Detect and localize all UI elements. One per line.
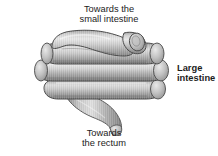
label-small-intestine: Towards the small intestine [0,4,218,25]
coil-loop-4 [44,79,166,99]
label-large-intestine-line2: intestine [177,73,215,83]
coil-loop-1 [52,30,135,56]
label-rectum-line2: the rectum [0,138,208,148]
label-rectum: Towards the rectum [0,128,208,149]
figure-root: Towards the small intestine Large intest… [0,0,218,156]
label-large-intestine-line1: Large [177,63,215,73]
coil-loop-2 [41,43,164,64]
label-small-intestine-line2: small intestine [0,14,218,24]
intestine-coil-group [35,30,169,135]
label-small-intestine-line1: Towards the [0,4,218,14]
label-rectum-line1: Towards [0,128,208,138]
small-intestine-opening [123,31,147,53]
coil-loop-3 [35,60,169,81]
label-large-intestine: Large intestine [177,63,215,84]
